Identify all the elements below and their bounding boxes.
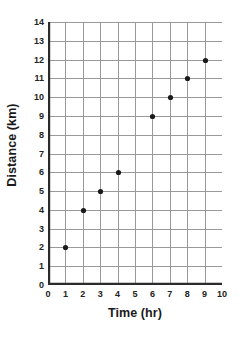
y-tick-label: 11 <box>26 73 44 83</box>
y-tick-label: 5 <box>26 186 44 196</box>
y-tick-label: 13 <box>26 36 44 46</box>
y-tick-label: 3 <box>26 224 44 234</box>
data-point <box>185 76 190 81</box>
y-tick-label: 7 <box>26 149 44 159</box>
data-point <box>203 58 208 63</box>
y-axis-tick-labels: 01234567891011121314 <box>24 0 44 337</box>
data-point <box>116 170 121 175</box>
data-point <box>98 189 103 194</box>
plot-svg <box>48 22 222 285</box>
y-tick-label: 14 <box>26 17 44 27</box>
y-axis-title-text: Distance (km) <box>5 103 19 186</box>
y-tick-label: 12 <box>26 55 44 65</box>
data-point <box>63 245 68 250</box>
y-axis-title: Distance (km) <box>0 0 24 290</box>
scatter-chart-figure: Distance (km) 01234567891011121314 01234… <box>0 0 245 337</box>
data-point <box>168 95 173 100</box>
data-point <box>81 208 86 213</box>
y-tick-label: 9 <box>26 111 44 121</box>
x-tick-label: 10 <box>212 289 232 299</box>
y-tick-label: 2 <box>26 242 44 252</box>
y-tick-label: 4 <box>26 205 44 215</box>
y-tick-label: 6 <box>26 167 44 177</box>
y-tick-label: 8 <box>26 130 44 140</box>
vertical-gridlines <box>66 22 223 285</box>
y-tick-label: 10 <box>26 92 44 102</box>
data-point <box>150 114 155 119</box>
x-axis-tick-labels: 012345678910 <box>48 289 238 303</box>
plot-area <box>48 22 222 285</box>
x-axis-title: Time (hr) <box>48 306 222 320</box>
y-tick-label: 1 <box>26 261 44 271</box>
